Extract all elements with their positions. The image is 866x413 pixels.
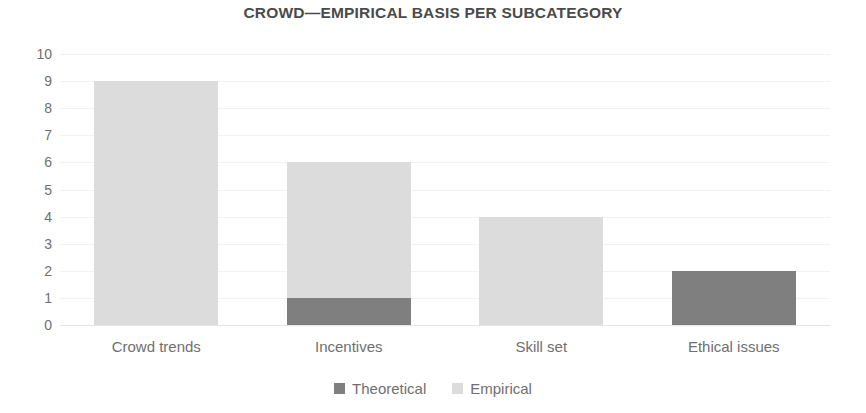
bars-layer [60, 54, 830, 325]
x-axis-category-labels: Crowd trendsIncentivesSkill setEthical i… [60, 338, 830, 362]
legend-swatch-theoretical-icon [334, 383, 345, 394]
bar-stack [479, 217, 603, 325]
bar-segment-empirical[interactable] [479, 217, 603, 325]
y-axis-tick-label: 2 [0, 264, 52, 278]
y-axis-tick-label: 8 [0, 101, 52, 115]
y-axis-tick-label: 6 [0, 155, 52, 169]
bar-group[interactable] [479, 54, 603, 325]
x-axis-category-label: Ethical issues [688, 338, 780, 355]
y-axis-tick-label: 3 [0, 237, 52, 251]
legend-label: Theoretical [352, 380, 426, 397]
bar-stack [287, 162, 411, 325]
y-axis-tick-label: 9 [0, 74, 52, 88]
bar-group[interactable] [672, 54, 796, 325]
bar-group[interactable] [94, 54, 218, 325]
y-axis-tick-label: 10 [0, 47, 52, 61]
y-axis-tick-label: 7 [0, 128, 52, 142]
y-axis-tick-label: 5 [0, 183, 52, 197]
legend-item[interactable]: Empirical [452, 380, 532, 397]
bar-segment-theoretical[interactable] [672, 271, 796, 325]
legend-label: Empirical [470, 380, 532, 397]
chart-legend: TheoreticalEmpirical [0, 380, 866, 397]
chart-title: CROWD—EMPIRICAL BASIS PER SUBCATEGORY [0, 4, 866, 22]
bar-segment-empirical[interactable] [94, 81, 218, 325]
gridline-0 [60, 325, 830, 326]
chart-container: CROWD—EMPIRICAL BASIS PER SUBCATEGORY 01… [0, 0, 866, 413]
bar-segment-empirical[interactable] [287, 162, 411, 298]
legend-swatch-empirical-icon [452, 383, 463, 394]
y-axis-tick-labels: 012345678910 [0, 54, 52, 325]
bar-stack [94, 81, 218, 325]
x-axis-category-label: Skill set [515, 338, 567, 355]
y-axis-tick-label: 4 [0, 210, 52, 224]
bar-group[interactable] [287, 54, 411, 325]
x-axis-category-label: Crowd trends [112, 338, 201, 355]
y-axis-tick-label: 0 [0, 318, 52, 332]
bar-segment-theoretical[interactable] [287, 298, 411, 325]
legend-item[interactable]: Theoretical [334, 380, 426, 397]
bar-stack [672, 271, 796, 325]
x-axis-category-label: Incentives [315, 338, 383, 355]
y-axis-tick-label: 1 [0, 291, 52, 305]
